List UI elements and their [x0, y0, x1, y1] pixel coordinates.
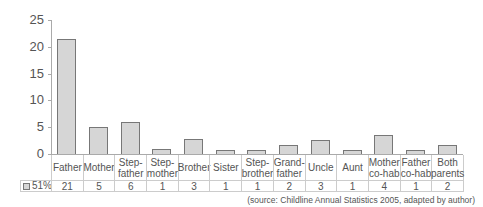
legend-entry: 51%: [20, 180, 52, 192]
y-tick-label: 0: [8, 147, 44, 161]
y-tick-label: 10: [8, 93, 44, 107]
bar: [121, 122, 140, 154]
value-cell: 2: [431, 180, 463, 192]
bar: [89, 127, 108, 154]
value-cell: 1: [400, 180, 432, 192]
value-cell: 3: [305, 180, 337, 192]
category-label: Uncle: [305, 155, 337, 180]
category-label: Father co-hab: [400, 155, 432, 180]
bar: [184, 139, 203, 154]
category-label: Both parents: [431, 155, 463, 180]
value-cell: 1: [241, 180, 273, 192]
category-label: Mother: [83, 155, 115, 180]
category-label: Step- father: [114, 155, 146, 180]
value-cell: 1: [146, 180, 178, 192]
y-axis: [51, 20, 52, 155]
category-label: Step- mother: [146, 155, 178, 180]
y-tick-label: 25: [8, 13, 44, 27]
y-tick-label: 5: [8, 120, 44, 134]
category-label: Father: [51, 155, 83, 180]
y-tick-label: 15: [8, 67, 44, 81]
category-label: Grand- father: [273, 155, 305, 180]
bar: [374, 135, 393, 154]
value-cell: 4: [368, 180, 400, 192]
value-cell: 6: [114, 180, 146, 192]
bar: [406, 150, 425, 154]
bar: [279, 145, 298, 154]
legend-label: 51%: [32, 181, 52, 191]
category-label: Sister: [209, 155, 241, 180]
category-label: Aunt: [336, 155, 368, 180]
bar: [438, 145, 457, 154]
y-tick: [48, 20, 52, 21]
legend-swatch-icon: [23, 183, 30, 190]
y-tick-label: 20: [8, 40, 44, 54]
y-tick: [48, 74, 52, 75]
y-tick: [48, 100, 52, 101]
value-cell: 21: [51, 180, 83, 192]
category-label: Mother co-hab: [368, 155, 400, 180]
source-note: (source: Childline Annual Statistics 200…: [247, 195, 475, 205]
bar: [247, 150, 266, 154]
category-label: Brother: [178, 155, 210, 180]
value-cell: 3: [178, 180, 210, 192]
value-cell: 1: [209, 180, 241, 192]
bar: [57, 39, 76, 154]
value-cell: 2: [273, 180, 305, 192]
bar: [152, 149, 171, 154]
bar: [343, 150, 362, 154]
value-cell: 1: [336, 180, 368, 192]
bar: [216, 150, 235, 154]
value-cell: 5: [83, 180, 115, 192]
category-label: Step- brother: [241, 155, 273, 180]
y-tick: [48, 127, 52, 128]
y-tick: [48, 47, 52, 48]
bar: [311, 140, 330, 154]
bar-chart: 0510152025 51% Father21Mother5Step- fath…: [0, 0, 483, 207]
